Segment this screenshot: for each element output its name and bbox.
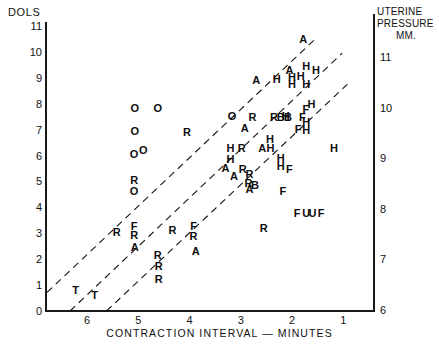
y-axis-left-tick-4: 4 — [20, 202, 42, 213]
y-axis-right-tick-6: 6 — [380, 305, 404, 316]
x-axis-tick-6: 6 — [75, 315, 99, 326]
data-point-R: R — [155, 261, 163, 272]
data-point-R: R — [154, 249, 162, 260]
y-axis-right-title-line3: MM. — [377, 30, 435, 42]
data-point-U: U — [309, 208, 317, 219]
y-axis-left-title: DOLS — [8, 6, 40, 19]
y-axis-left-tick-0: 0 — [20, 306, 42, 317]
data-point-F: F — [318, 208, 325, 219]
y-axis-right-title-line1: UTERINE — [377, 6, 422, 17]
y-axis-left-tick-9: 9 — [20, 73, 42, 84]
data-point-F: F — [295, 124, 302, 135]
y-axis-left-tick-5: 5 — [20, 176, 42, 187]
data-point-H: H — [266, 143, 274, 154]
data-point-F: F — [286, 164, 293, 175]
data-point-T: T — [91, 289, 98, 300]
x-axis-title: CONTRACTION INTERVAL — MINUTES — [0, 327, 439, 339]
y-axis-left-tick-3: 3 — [20, 228, 42, 239]
data-point-R: R — [190, 231, 198, 242]
y-axis-right-tick-7: 7 — [380, 254, 404, 265]
x-axis-tick-4: 4 — [178, 315, 202, 326]
data-point-H: H — [273, 74, 281, 85]
data-point-R: R — [260, 222, 268, 233]
chart-figure: DOLS UTERINE PRESSURE MM. CONTRACTION IN… — [0, 0, 439, 345]
y-axis-right-tick-9: 9 — [380, 153, 404, 164]
data-point-R: R — [183, 126, 191, 137]
data-point-H: H — [307, 99, 315, 110]
data-point-H: H — [302, 124, 310, 135]
data-point-O: O — [139, 144, 148, 155]
data-point-R: R — [238, 142, 246, 153]
data-point-F: F — [294, 208, 301, 219]
x-axis-tick-1: 1 — [331, 315, 355, 326]
data-point-A: A — [230, 170, 238, 181]
data-point-R: R — [113, 226, 121, 237]
data-point-H: H — [302, 78, 310, 89]
data-point-F: F — [279, 186, 286, 197]
y-axis-left-tick-6: 6 — [20, 151, 42, 162]
data-point-O: O — [130, 102, 139, 113]
data-point-R: R — [130, 229, 138, 240]
x-axis-tick-5: 5 — [126, 315, 150, 326]
data-point-O: O — [228, 111, 237, 122]
y-axis-right-tick-8: 8 — [380, 204, 404, 215]
data-point-H: H — [227, 142, 235, 153]
data-point-A: A — [299, 34, 307, 45]
data-point-A: A — [252, 74, 260, 85]
data-point-B: B — [251, 179, 259, 190]
data-point-R: R — [155, 274, 163, 285]
data-point-H: H — [227, 154, 235, 165]
data-point-A: A — [131, 241, 139, 252]
data-point-H: H — [282, 111, 290, 122]
data-point-H: H — [312, 64, 320, 75]
data-point-H: H — [330, 142, 338, 153]
y-axis-right-line — [373, 14, 375, 312]
x-axis-line — [45, 310, 375, 312]
y-axis-right-tick-11: 11 — [380, 52, 404, 63]
data-point-O: O — [130, 149, 139, 160]
y-axis-left-tick-7: 7 — [20, 125, 42, 136]
data-point-A: A — [192, 245, 200, 256]
y-axis-right-title: UTERINE PRESSURE MM. — [377, 6, 435, 41]
y-axis-right-tick-10: 10 — [380, 103, 404, 114]
y-axis-left-tick-2: 2 — [20, 254, 42, 265]
data-point-O: O — [153, 102, 162, 113]
data-point-A: A — [258, 142, 266, 153]
data-point-O: O — [130, 125, 139, 136]
y-axis-left-tick-1: 1 — [20, 280, 42, 291]
y-axis-left-line — [45, 22, 47, 312]
data-point-H: H — [288, 78, 296, 89]
y-axis-left-tick-8: 8 — [20, 99, 42, 110]
y-axis-left-tick-11: 11 — [20, 21, 42, 32]
data-point-T: T — [72, 285, 79, 296]
y-axis-right-title-line2: PRESSURE — [377, 18, 434, 29]
data-point-H: H — [277, 161, 285, 172]
y-axis-left-tick-10: 10 — [20, 47, 42, 58]
data-point-R: R — [169, 225, 177, 236]
data-point-R: R — [249, 112, 257, 123]
data-point-O: O — [130, 186, 139, 197]
data-point-A: A — [241, 123, 249, 134]
x-axis-tick-3: 3 — [229, 315, 253, 326]
x-axis-tick-2: 2 — [280, 315, 304, 326]
middle-isobar — [70, 53, 342, 311]
